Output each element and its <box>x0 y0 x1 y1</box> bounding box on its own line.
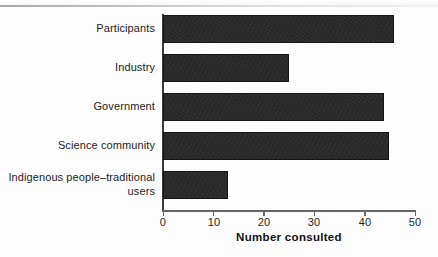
bar-participants <box>163 15 395 43</box>
y-axis-label-participants: Participants <box>0 22 155 36</box>
x-axis-title: Number consulted <box>163 231 415 243</box>
scan-edge-line <box>0 5 438 7</box>
bar-indigenous-people <box>163 171 229 199</box>
bar-chart-figure: 0 10 20 30 40 50 Participants Industry G… <box>0 0 438 257</box>
y-axis-label-indigenous-people: Indigenous people–traditional users <box>0 171 155 198</box>
x-axis-tick-label-50: 50 <box>409 216 422 228</box>
y-axis-label-government: Government <box>0 100 155 114</box>
x-axis-tick-label-10: 10 <box>208 216 221 228</box>
x-axis-tick-label-30: 30 <box>308 216 321 228</box>
x-axis-line <box>162 210 416 212</box>
x-axis-tick-label-40: 40 <box>359 216 372 228</box>
y-axis-label-industry: Industry <box>0 61 155 75</box>
bar-industry <box>163 54 289 82</box>
bar-science-community <box>163 132 390 160</box>
bar-government <box>163 93 385 121</box>
x-axis-tick-label-0: 0 <box>160 216 166 228</box>
x-axis-tick-label-20: 20 <box>258 216 271 228</box>
y-axis-label-science-community: Science community <box>0 139 155 153</box>
